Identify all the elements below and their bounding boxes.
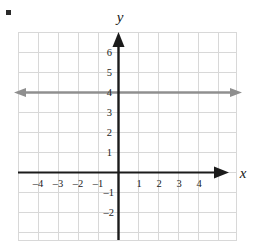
y-tick-label: 4 bbox=[107, 87, 113, 98]
y-tick-label: 1 bbox=[107, 147, 112, 158]
bullet-marker-icon bbox=[6, 10, 11, 15]
x-tick-label: –3 bbox=[52, 178, 64, 189]
x-tick-label: 1 bbox=[136, 178, 141, 189]
y-tick-label: 5 bbox=[107, 67, 112, 78]
x-tick-label: 4 bbox=[196, 178, 202, 189]
x-axis-label: x bbox=[239, 165, 247, 181]
y-axis-label: y bbox=[115, 9, 124, 25]
y-tick-label: –2 bbox=[103, 207, 115, 218]
y-tick-label: 2 bbox=[107, 127, 112, 138]
x-tick-label: –4 bbox=[32, 178, 44, 189]
coordinate-plane-svg: y x 6 5 4 3 2 1 –1 –2 –4 –3 –2 –1 1 2 3 … bbox=[0, 0, 256, 249]
y-tick-label: 3 bbox=[107, 107, 112, 118]
x-tick-label: –1 bbox=[92, 178, 104, 189]
graph-figure: y x 6 5 4 3 2 1 –1 –2 –4 –3 –2 –1 1 2 3 … bbox=[0, 0, 256, 249]
x-tick-label: 2 bbox=[156, 178, 161, 189]
x-tick-label: 3 bbox=[176, 178, 181, 189]
x-tick-label: –2 bbox=[72, 178, 84, 189]
y-tick-label: –1 bbox=[103, 187, 115, 198]
y-tick-label: 6 bbox=[107, 47, 112, 58]
